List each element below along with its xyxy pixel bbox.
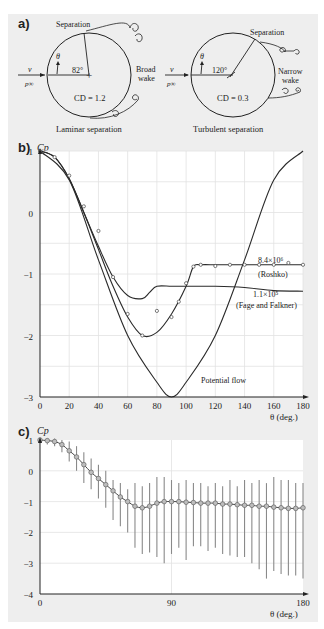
theta-arrow-icon <box>56 61 60 65</box>
turbulent-velocity-label: v <box>170 65 174 74</box>
data-point-marker <box>53 156 56 159</box>
data-point-marker <box>60 442 65 447</box>
y-tick-label: 1 <box>29 436 34 446</box>
y-tick-label: −1 <box>23 498 33 508</box>
data-point-marker <box>177 300 180 303</box>
turbulent-pressure-label: p∞ <box>166 80 176 88</box>
x-axis-arrow-icon <box>303 592 309 596</box>
potential-flow-label: Potential flow <box>201 376 246 385</box>
fage-re-label: 1.1×10⁵ <box>253 290 279 299</box>
x-tick-label: 90 <box>167 598 177 608</box>
data-point-marker <box>170 315 173 318</box>
y-tick-label: −4 <box>23 590 33 600</box>
y-tick-label: −2 <box>23 332 33 342</box>
data-point-marker <box>279 505 284 510</box>
y-tick-label: 0 <box>29 209 34 219</box>
data-point-marker <box>45 438 50 443</box>
data-point-marker <box>96 476 101 481</box>
data-point-marker <box>111 489 116 494</box>
data-point-marker <box>257 504 262 509</box>
data-point-marker <box>287 261 290 264</box>
turbulent-drag-label: CD = 0.3 <box>217 93 248 103</box>
laminar-caption: Laminar separation <box>56 124 123 134</box>
laminar-pressure-label: p∞ <box>24 80 34 88</box>
x-tick-label: 100 <box>179 401 193 411</box>
data-point-marker <box>82 205 85 208</box>
data-point-marker <box>264 504 269 509</box>
y-tick-label: −1 <box>23 270 33 280</box>
data-point-marker <box>191 500 196 505</box>
data-point-marker <box>192 265 195 268</box>
laminar-drag-label: CD = 1.2 <box>74 93 105 103</box>
data-point-marker <box>198 501 203 506</box>
data-point-marker <box>126 312 129 315</box>
laminar-separation-label: Separation <box>56 20 90 29</box>
data-point-marker <box>89 470 94 475</box>
data-point-marker <box>97 229 100 232</box>
data-point-marker <box>118 495 123 500</box>
y-tick-label: −2 <box>23 528 33 538</box>
data-point-marker <box>103 482 108 487</box>
y-tick-label: 0 <box>29 467 34 477</box>
x-tick-label: 180 <box>296 401 310 411</box>
laminar-theta-label: θ <box>56 52 60 61</box>
data-point-marker <box>206 501 211 506</box>
data-point-marker <box>293 506 298 511</box>
broad-wake-label-1: Broad <box>136 65 156 74</box>
x-tick-label: 80 <box>152 401 162 411</box>
panel-a-label: a) <box>18 16 30 31</box>
data-point-marker <box>82 462 87 467</box>
roshko-re-label: 8.4×10⁶ <box>258 256 284 265</box>
data-point-marker <box>140 505 145 510</box>
x-tick-label: 160 <box>267 401 281 411</box>
separation-radius-line <box>230 39 255 77</box>
data-point-marker <box>177 499 182 504</box>
data-point-marker <box>242 503 247 508</box>
broad-wake-label-2: wake <box>138 74 155 83</box>
data-point-marker <box>228 263 231 266</box>
theta-arrow-icon <box>200 61 204 65</box>
panel-c-yticks: 10−1−2−3−4 <box>23 436 33 600</box>
x-tick-label: 40 <box>94 401 104 411</box>
x-tick-label: 0 <box>38 401 43 411</box>
panel-c-ylabel: Cp <box>37 425 49 436</box>
turbulent-angle-label: 120° <box>212 66 227 75</box>
narrow-wake-label-1: Narrow <box>278 67 303 76</box>
data-point-marker <box>214 264 217 267</box>
laminar-angle-label: 82° <box>72 66 83 75</box>
panel-b-xticks: 020406080100120140160180 <box>38 401 311 411</box>
center-plus-icon: + <box>86 69 92 81</box>
fage-label: (Fage and Falkner) <box>236 301 297 310</box>
data-point-marker <box>162 499 167 504</box>
x-tick-label: 180 <box>296 598 310 608</box>
data-point-marker <box>271 505 276 510</box>
data-point-marker <box>213 501 218 506</box>
data-point-marker <box>74 455 79 460</box>
data-point-marker <box>250 503 255 508</box>
data-point-marker <box>228 502 233 507</box>
data-point-marker <box>67 448 72 453</box>
data-point-marker <box>68 174 71 177</box>
figure-svg: a) + Separation 82° θ v p∞ Broad wake CD… <box>0 0 324 629</box>
data-point-marker <box>301 263 304 266</box>
data-point-marker <box>155 309 158 312</box>
panel-c-xlabel: θ (deg.) <box>270 609 298 619</box>
data-point-marker <box>147 504 152 509</box>
panel-b-xlabel: θ (deg.) <box>270 412 298 422</box>
x-tick-label: 120 <box>209 401 223 411</box>
turbulent-theta-label: θ <box>200 52 204 61</box>
panel-b-yticks: 10−1−2−3 <box>23 147 33 403</box>
turbulent-separation-label: Separation <box>250 28 284 37</box>
narrow-wake-label-2: wake <box>282 76 299 85</box>
x-tick-label: 60 <box>123 401 133 411</box>
data-point-marker <box>141 334 144 337</box>
data-point-marker <box>185 282 188 285</box>
laminar-velocity-label: v <box>28 65 32 74</box>
upper-vortex-icon <box>86 23 138 31</box>
data-point-marker <box>286 506 291 511</box>
y-tick-label: 1 <box>29 147 34 157</box>
y-tick-label: −3 <box>23 393 33 403</box>
data-point-marker <box>235 502 240 507</box>
turbulent-caption: Turbulent separation <box>193 124 264 134</box>
data-point-marker <box>220 502 225 507</box>
